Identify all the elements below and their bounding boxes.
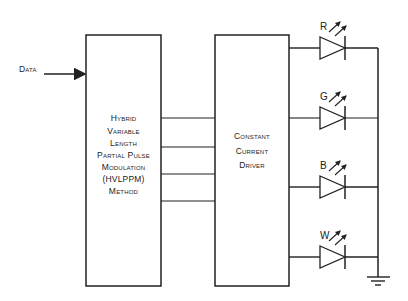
hvlppm-line-2: Variable xyxy=(107,126,140,136)
led-label-g: G xyxy=(320,91,328,102)
ground-icon xyxy=(367,277,390,285)
led-label-b: B xyxy=(320,160,327,171)
hvlppm-line-4: Partial Pulse xyxy=(97,150,150,160)
led-icon xyxy=(320,107,345,129)
bus-lines xyxy=(161,118,215,201)
hvlppm-line-7: Method xyxy=(109,186,139,196)
led-w: W xyxy=(289,230,378,269)
driver-line-2: Current xyxy=(236,146,269,156)
light-emission-icon xyxy=(329,22,340,32)
light-emission-icon xyxy=(329,161,340,171)
driver-block: Constant Current Driver xyxy=(215,35,289,286)
hvlppm-block: Hybrid Variable Length Partial Pulse Mod… xyxy=(86,35,161,286)
led-icon xyxy=(320,37,345,59)
led-icon xyxy=(320,176,345,198)
led-icon xyxy=(320,246,345,268)
driver-line-3: Driver xyxy=(239,160,265,170)
driver-line-1: Constant xyxy=(234,131,270,141)
light-emission-icon xyxy=(329,92,340,102)
hvlppm-line-3: Length xyxy=(110,138,137,148)
led-b: B xyxy=(289,160,378,199)
light-emission-icon xyxy=(329,231,340,241)
block-diagram: Data Hybrid Variable Length Partial Puls… xyxy=(0,0,408,301)
led-r: R xyxy=(289,21,378,60)
led-g: G xyxy=(289,91,378,130)
led-label-r: R xyxy=(320,21,327,32)
hvlppm-line-5: Modulation xyxy=(102,162,146,172)
hvlppm-line-1: Hybrid xyxy=(111,113,137,123)
data-input-label: Data xyxy=(19,64,37,74)
hvlppm-line-6: (HVLPPM) xyxy=(102,174,144,184)
led-label-w: W xyxy=(320,230,330,241)
